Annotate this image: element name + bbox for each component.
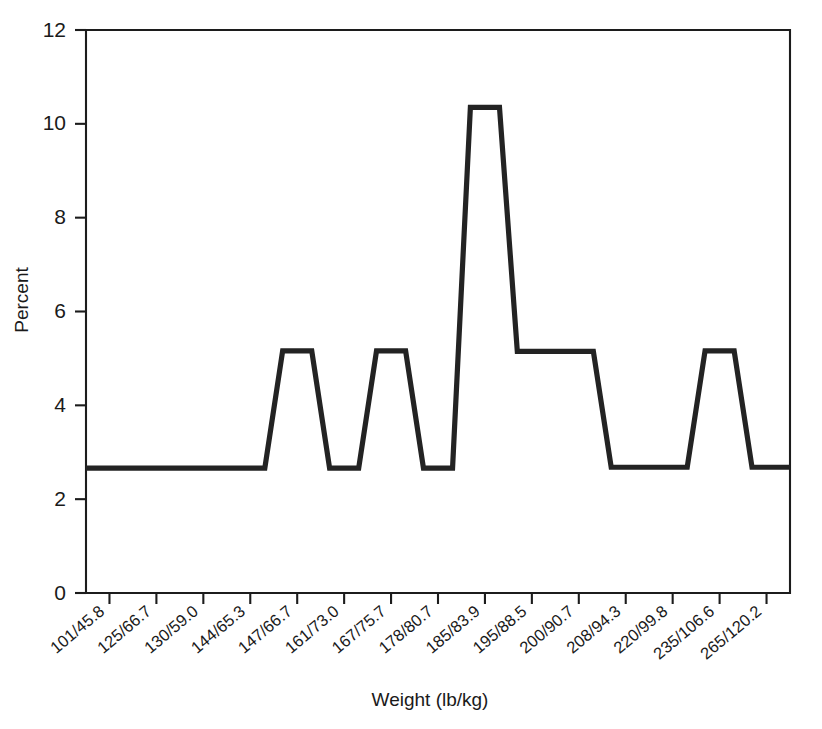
y-axis-tick-labels: 024681012 [43, 18, 67, 604]
y-tick-label: 8 [54, 205, 66, 228]
y-tick-label: 12 [43, 18, 66, 41]
percent-line-series [86, 107, 790, 468]
chart-figure: 024681012 101/45.8125/66.7130/59.0144/65… [0, 0, 822, 729]
y-tick-label: 6 [54, 299, 66, 322]
x-axis-tick-labels: 101/45.8125/66.7130/59.0144/65.3147/66.7… [47, 602, 765, 663]
plot-frame-border [86, 30, 790, 593]
y-axis-ticks [75, 30, 86, 593]
y-axis-title: Percent [11, 267, 32, 333]
chart-canvas: 024681012 101/45.8125/66.7130/59.0144/65… [0, 0, 822, 729]
y-tick-label: 10 [43, 111, 66, 134]
y-tick-label: 0 [54, 581, 66, 604]
data-series-layer [86, 107, 790, 468]
x-axis-ticks [109, 593, 766, 604]
y-tick-label: 4 [54, 393, 66, 416]
plot-frame [86, 30, 790, 593]
y-tick-label: 2 [54, 487, 66, 510]
x-axis-title: Weight (lb/kg) [372, 689, 489, 710]
